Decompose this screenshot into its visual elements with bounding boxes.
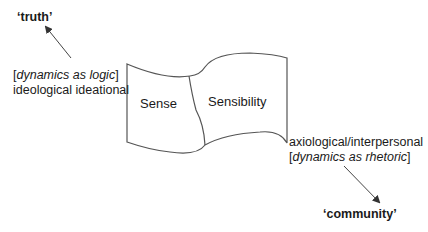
right-annotation: axiological/interpersonal [dynamics as r… [289, 135, 423, 165]
left-annotation: [dynamics as logic] ideological ideation… [13, 68, 129, 98]
fold-line [189, 76, 205, 145]
left-annotation-line1: [dynamics as logic] [13, 68, 129, 83]
arrow-to-community [344, 166, 379, 202]
sense-label: Sense [140, 96, 177, 111]
right-annotation-line2: [dynamics as rhetoric] [289, 150, 423, 165]
left-annotation-line2: ideological ideational [13, 83, 129, 98]
community-label: ‘community’ [323, 207, 397, 222]
sensibility-label: Sensibility [208, 94, 267, 109]
bracket-close: ] [407, 150, 410, 164]
diagram-canvas [0, 0, 428, 232]
dynamics-as-rhetoric: dynamics as rhetoric [292, 150, 407, 164]
dynamics-as-logic: dynamics as logic [16, 68, 115, 82]
right-annotation-line1: axiological/interpersonal [289, 135, 423, 150]
truth-label: ‘truth’ [17, 10, 52, 25]
arrow-to-truth [46, 27, 71, 58]
bracket-close: ] [115, 68, 118, 82]
